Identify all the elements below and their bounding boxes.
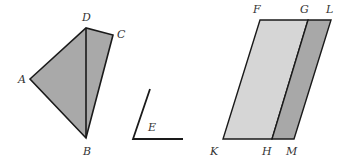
label-l: L [325,3,333,16]
label-h: H [261,145,272,158]
geometry-diagram: A B C D E F G L K H M [0,0,352,165]
label-f: F [252,3,261,16]
label-d: D [81,11,91,24]
quadrilateral-abcd: A B C D [17,11,126,158]
label-a: A [17,73,26,86]
label-m: M [285,145,298,158]
angle-arms [133,89,183,139]
label-e: E [147,121,156,134]
parallelogram-flmk: F G L K H M [209,3,333,158]
label-k: K [209,145,219,158]
label-g: G [300,3,309,16]
label-c: C [117,28,126,41]
label-b: B [82,145,91,158]
quadrilateral-shape [30,28,113,138]
angle-e: E [133,89,183,139]
